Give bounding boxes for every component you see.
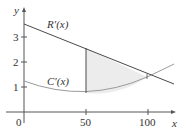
chart-canvas: y x 0 50 100 1 2 3 R′(x) C′(x)	[0, 0, 185, 135]
shaded-region	[86, 48, 147, 93]
x-axis-arrow	[171, 110, 176, 114]
x-axis-label: x	[171, 117, 177, 129]
tick-label-1: 1	[13, 81, 19, 93]
y-axis-arrow	[22, 7, 26, 12]
tick-label-50: 50	[80, 116, 92, 128]
tick-label-100: 100	[139, 116, 156, 128]
tick-label-2: 2	[13, 56, 19, 68]
c-prime-label: C′(x)	[47, 75, 69, 88]
tick-label-3: 3	[13, 31, 19, 43]
r-prime-label: R′(x)	[46, 18, 69, 31]
y-axis-label: y	[13, 4, 19, 16]
origin-label: 0	[16, 116, 22, 128]
